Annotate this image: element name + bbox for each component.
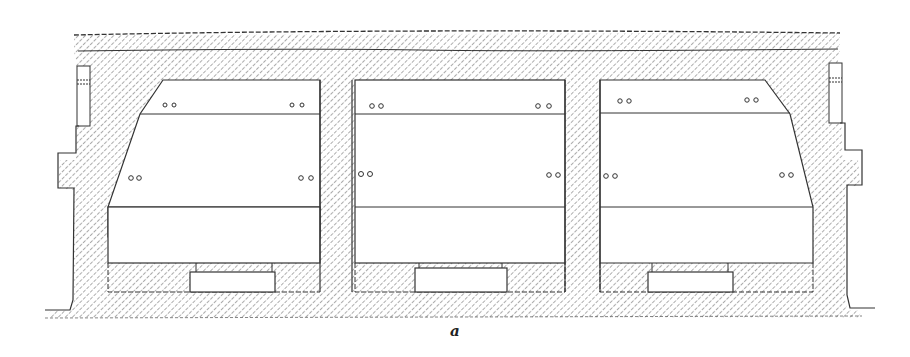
- figure-caption: a: [450, 322, 460, 340]
- chamber-middle: [355, 80, 565, 292]
- cross-section-drawing: [0, 0, 910, 357]
- chamber-right: [600, 80, 813, 292]
- foundation-block: [190, 272, 275, 292]
- foundation-block: [648, 272, 733, 292]
- foundation-block: [415, 268, 507, 292]
- left-niche: [77, 66, 90, 126]
- right-niche: [829, 63, 842, 123]
